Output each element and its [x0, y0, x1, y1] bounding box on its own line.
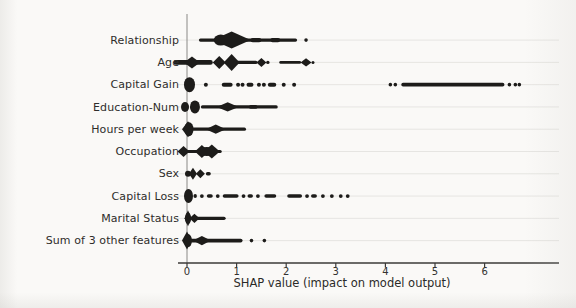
feature-label-education-num: Education-Num: [0, 96, 179, 118]
feature-label-capital-gain: Capital Gain: [0, 74, 179, 96]
feature-label-capital-loss: Capital Loss: [0, 185, 179, 207]
feature-label-age: Age: [0, 51, 179, 73]
feature-label-sum-other: Sum of 3 other features: [0, 230, 179, 252]
x-axis-title: SHAP value (impact on model output): [187, 276, 497, 290]
feature-labels: Relationship Age Capital Gain Education-…: [0, 29, 188, 252]
feature-label-sex: Sex: [0, 163, 179, 185]
feature-label-relationship: Relationship: [0, 29, 179, 51]
feature-label-occupation: Occupation: [0, 140, 179, 162]
feature-label-marital-status: Marital Status: [0, 207, 179, 229]
feature-label-hours-per-week: Hours per week: [0, 118, 179, 140]
shap-summary-figure: Relationship Age Capital Gain Education-…: [0, 0, 576, 308]
